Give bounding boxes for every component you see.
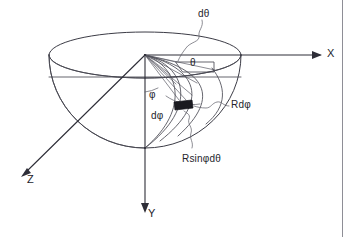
surface-area-element-patch (174, 100, 193, 110)
origin-point (144, 54, 146, 56)
label-x-axis: X (327, 48, 335, 59)
label-d-phi: dφ (151, 111, 163, 121)
bottom-pole-point (144, 147, 146, 149)
label-z-axis: Z (27, 174, 34, 185)
meridian-arc-outer (206, 68, 223, 124)
r-d-phi-leader-line (194, 102, 229, 108)
label-r-sin-phi-d-theta: Rsinφdθ (182, 154, 221, 164)
label-d-theta: dθ (198, 9, 210, 19)
label-r-d-phi: Rdφ (231, 100, 251, 110)
label-y-axis: Y (148, 208, 156, 219)
x-axis-arrowhead (312, 51, 322, 59)
spherical-coordinates-figure: dθ θ φ dφ Rdφ Rsinφdθ X Y Z (0, 0, 347, 237)
label-phi: φ (149, 90, 156, 100)
label-theta: θ (190, 58, 196, 68)
diagram-canvas (0, 0, 347, 237)
equator-ellipse-back (49, 32, 241, 55)
